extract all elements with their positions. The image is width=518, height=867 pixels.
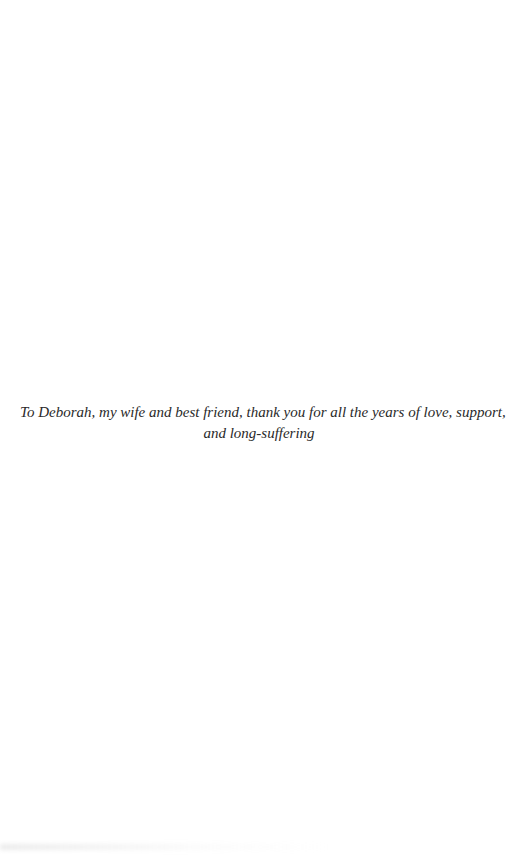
dedication-line-1: To Deborah, my wife and best friend, tha… (20, 402, 498, 423)
scan-artifact (0, 844, 330, 850)
dedication-text: To Deborah, my wife and best friend, tha… (20, 402, 498, 444)
book-page: To Deborah, my wife and best friend, tha… (0, 0, 518, 867)
dedication-line-2: and long-suffering (20, 423, 498, 444)
